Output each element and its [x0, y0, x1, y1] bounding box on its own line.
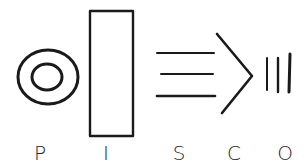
three-horizontal-lines-icon [157, 53, 215, 96]
concentric-circles-icon [18, 50, 78, 104]
three-vertical-bars-icon [267, 54, 290, 92]
tall-rectangle-icon [90, 11, 133, 136]
letter-c: C [227, 141, 241, 165]
pisco-sketch: P I S C O [0, 0, 308, 165]
angle-bracket-icon [217, 34, 252, 113]
letter-s: S [173, 141, 186, 165]
letter-i: I [103, 141, 109, 165]
letter-p: P [34, 141, 46, 165]
letter-o: O [277, 141, 293, 165]
